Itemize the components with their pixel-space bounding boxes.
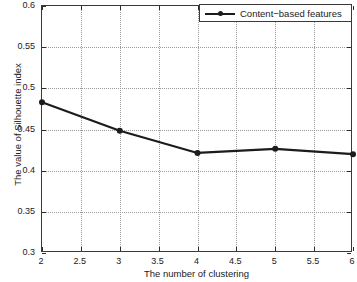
data-point-marker — [195, 150, 201, 156]
x-tick-label: 4.5 — [229, 256, 242, 267]
x-tick-label: 4 — [194, 256, 199, 267]
x-axis-title: The number of clustering — [41, 268, 352, 279]
x-tick-label: 2 — [38, 256, 43, 267]
series-line — [42, 102, 353, 154]
data-point-marker — [350, 151, 356, 157]
legend-label: Content−based features — [240, 8, 342, 19]
y-axis-title: The value of Silhouette index — [12, 45, 23, 205]
data-point-marker — [272, 146, 278, 152]
legend: Content−based features — [199, 4, 352, 22]
legend-line-marker-icon — [205, 7, 235, 19]
tick-mark-y — [347, 253, 351, 254]
x-tick-label: 5 — [272, 256, 277, 267]
x-tick-label: 6 — [349, 256, 354, 267]
y-tick-label: 0.3 — [2, 247, 35, 258]
tick-mark-x — [353, 6, 354, 10]
figure: 22.533.544.555.56 0.30.350.40.450.50.550… — [0, 0, 357, 282]
x-tick-label: 5.5 — [307, 256, 320, 267]
tick-mark-x — [353, 247, 354, 251]
data-point-marker — [39, 99, 45, 105]
plot-area — [41, 5, 352, 252]
x-tick-label: 2.5 — [74, 256, 87, 267]
y-tick-label: 0.6 — [2, 0, 35, 11]
x-tick-label: 3.5 — [151, 256, 164, 267]
data-point-marker — [117, 128, 123, 134]
tick-mark-y — [42, 253, 46, 254]
x-tick-label: 3 — [116, 256, 121, 267]
y-tick-label: 0.35 — [2, 205, 35, 216]
series-content-based-features — [42, 6, 353, 253]
